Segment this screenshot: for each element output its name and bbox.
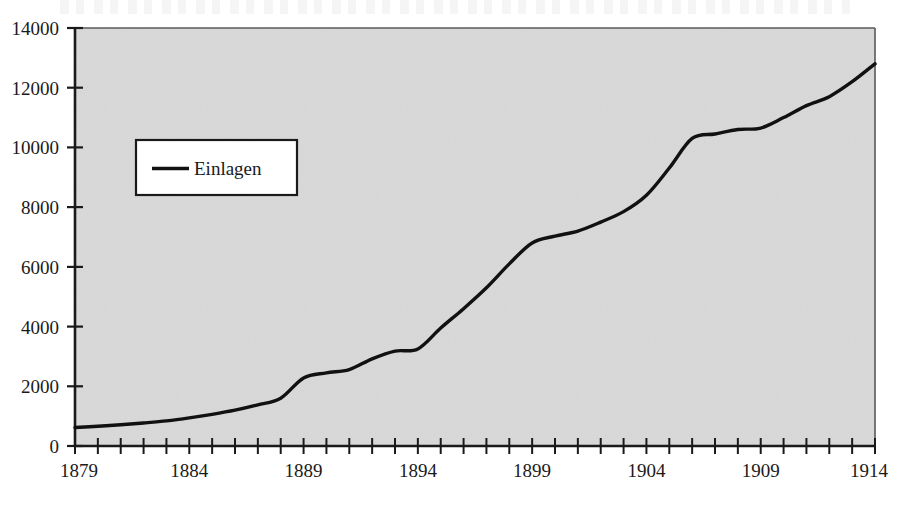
x-tick-label: 1884 xyxy=(170,460,209,481)
plot-area-texture xyxy=(75,28,875,446)
y-tick-label: 10000 xyxy=(12,137,60,158)
x-axis-tick-labels: 1879 1884 1889 1894 1899 1904 1909 1914 xyxy=(60,460,889,481)
x-tick-label: 1904 xyxy=(627,460,666,481)
y-tick-label: 8000 xyxy=(21,197,59,218)
y-tick-label: 14000 xyxy=(12,18,60,39)
y-tick-label: 0 xyxy=(50,436,60,457)
x-tick-label: 1909 xyxy=(742,460,780,481)
y-tick-label: 2000 xyxy=(21,376,59,397)
x-tick-label: 1889 xyxy=(285,460,323,481)
y-tick-10000: 10000 xyxy=(12,137,84,158)
x-tick-label: 1879 xyxy=(60,460,98,481)
x-tick-label: 1894 xyxy=(399,460,438,481)
line-chart-einlagen: 0 2000 4000 6000 8000 10000 xyxy=(0,0,899,509)
y-tick-14000: 14000 xyxy=(12,18,84,39)
y-tick-label: 12000 xyxy=(12,78,60,99)
y-tick-label: 6000 xyxy=(21,257,59,278)
x-tick-label: 1899 xyxy=(513,460,551,481)
y-tick-label: 4000 xyxy=(21,317,59,338)
y-axis-ticks: 0 2000 4000 6000 8000 10000 xyxy=(12,18,84,457)
legend-label-einlagen: Einlagen xyxy=(194,158,262,179)
chart-figure: 0 2000 4000 6000 8000 10000 xyxy=(0,0,899,509)
y-tick-12000: 12000 xyxy=(12,78,84,99)
legend: Einlagen xyxy=(136,140,297,195)
x-tick-label: 1914 xyxy=(850,460,889,481)
